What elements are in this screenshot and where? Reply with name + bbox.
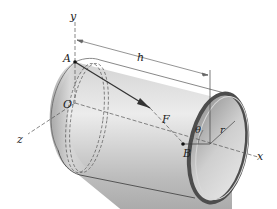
label-h: h [137,51,144,64]
diagram-canvas: y A h O z F B θ r x [0,0,277,209]
label-A: A [62,52,71,65]
label-theta: θ [195,124,201,135]
label-B: B [182,147,191,160]
label-O: O [63,98,72,111]
label-x: x [257,150,264,163]
cylinder-diagram: y A h O z F B θ r x [0,0,277,209]
point-A-dot [73,60,77,64]
label-y: y [69,10,77,23]
point-B-dot [181,142,185,146]
label-z: z [16,133,23,146]
label-F: F [161,113,170,126]
